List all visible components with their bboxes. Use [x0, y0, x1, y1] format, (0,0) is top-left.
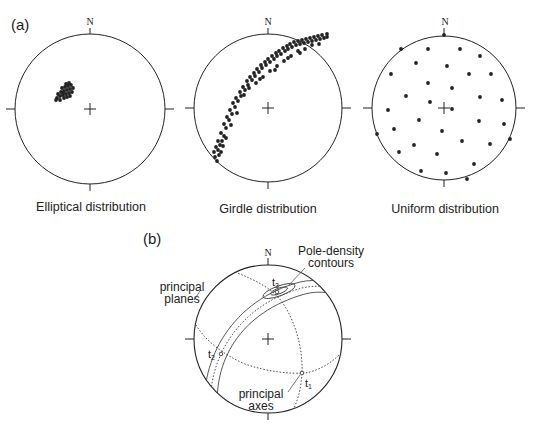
- pole-point: [389, 72, 393, 76]
- pole-point: [460, 139, 464, 143]
- pole-point: [426, 81, 430, 85]
- pole-point: [444, 171, 448, 175]
- pole-point: [458, 47, 462, 51]
- principal-axes-label-2: axes: [248, 399, 273, 413]
- pole-point: [417, 118, 421, 122]
- pole-point: [386, 108, 390, 112]
- pole-point: [478, 54, 482, 58]
- pole-point: [292, 40, 296, 44]
- pole-point: [224, 126, 228, 130]
- pole-point: [435, 152, 439, 156]
- pole-point: [282, 59, 286, 63]
- pole-point: [275, 64, 279, 68]
- pole-point: [254, 81, 258, 85]
- pole-point: [281, 46, 285, 50]
- north-label: N: [264, 247, 271, 258]
- pole-point: [234, 96, 238, 100]
- pole-point: [288, 42, 292, 46]
- pole-point: [489, 72, 493, 76]
- pole-point: [300, 38, 304, 42]
- pole-point: [241, 85, 245, 89]
- pole-point: [488, 142, 492, 146]
- pole-point: [502, 122, 506, 126]
- pole-points: [212, 32, 329, 163]
- north-label: N: [86, 16, 93, 27]
- t1-label: t1: [305, 377, 312, 390]
- pole-point: [308, 36, 312, 40]
- pole-point: [508, 137, 512, 141]
- caption-girdle: Girdle distribution: [219, 202, 316, 216]
- pole-density-label-2: contours: [308, 256, 354, 270]
- pole-point: [277, 49, 281, 53]
- north-label: N: [441, 16, 448, 27]
- pole-point: [216, 139, 220, 143]
- t2-label: t2: [208, 348, 215, 361]
- pole-point: [224, 136, 228, 140]
- pole-point: [316, 34, 320, 38]
- pole-point: [215, 159, 219, 163]
- pole-point: [231, 101, 235, 105]
- pole-point: [440, 129, 444, 133]
- pole-point: [399, 47, 403, 51]
- pole-point: [266, 57, 270, 61]
- pole-point: [310, 43, 314, 47]
- pole-point: [477, 119, 481, 123]
- pole-point: [467, 72, 471, 76]
- pole-point: [238, 90, 242, 94]
- pole-point: [317, 42, 321, 46]
- pole-point: [472, 162, 476, 166]
- pole-point: [58, 98, 62, 102]
- pole-point: [230, 112, 234, 116]
- pole-point: [320, 33, 324, 37]
- t1-marker: [300, 371, 304, 375]
- pole-point: [325, 32, 329, 36]
- pole-point: [61, 91, 65, 95]
- pole-points: [54, 81, 75, 102]
- pole-point: [270, 54, 274, 58]
- pole-point: [392, 127, 396, 131]
- pole-point: [252, 71, 256, 75]
- pole-point: [219, 150, 223, 154]
- pole-point: [375, 132, 379, 136]
- pole-point: [268, 69, 272, 73]
- pole-point: [68, 94, 72, 98]
- pole-point: [219, 131, 223, 135]
- pole-point: [296, 39, 300, 43]
- pole-point: [67, 81, 71, 85]
- pole-point: [228, 108, 232, 112]
- pole-point: [304, 37, 308, 41]
- pole-point: [248, 75, 252, 79]
- net-principal-axes: N t3 t2 t1 Pole-density contour: [160, 244, 364, 420]
- pole-point: [397, 150, 401, 154]
- pole-point: [229, 123, 233, 127]
- principal-planes-label-2: planes: [164, 292, 199, 306]
- north-label: N: [264, 16, 271, 27]
- pole-point: [465, 177, 469, 181]
- pole-point: [312, 35, 316, 39]
- net-uniform: N Uniform distribution: [363, 16, 525, 216]
- net-girdle: N Girdle distribution: [185, 16, 351, 216]
- pole-point: [220, 139, 224, 143]
- pole-point: [404, 94, 408, 98]
- pole-point: [54, 98, 58, 102]
- t2-marker: [219, 352, 223, 356]
- pole-point: [214, 145, 218, 149]
- pole-point: [450, 86, 454, 90]
- pole-point: [298, 51, 302, 55]
- pole-point: [221, 144, 225, 148]
- pole-point: [428, 100, 432, 104]
- panel-b-label: (b): [143, 230, 161, 247]
- pole-point: [225, 115, 229, 119]
- pole-point: [212, 150, 216, 154]
- pole-point: [235, 111, 239, 115]
- t3-marker: [275, 290, 279, 294]
- principal-axes-leader: [288, 375, 300, 392]
- caption-elliptical: Elliptical distribution: [36, 200, 146, 214]
- net-elliptical: N Elliptical distribution: [6, 16, 174, 214]
- pole-point: [242, 93, 246, 97]
- pole-point: [419, 169, 423, 173]
- pole-point: [303, 47, 307, 51]
- pole-point: [263, 60, 267, 64]
- caption-uniform: Uniform distribution: [391, 202, 499, 216]
- pole-point: [286, 56, 290, 60]
